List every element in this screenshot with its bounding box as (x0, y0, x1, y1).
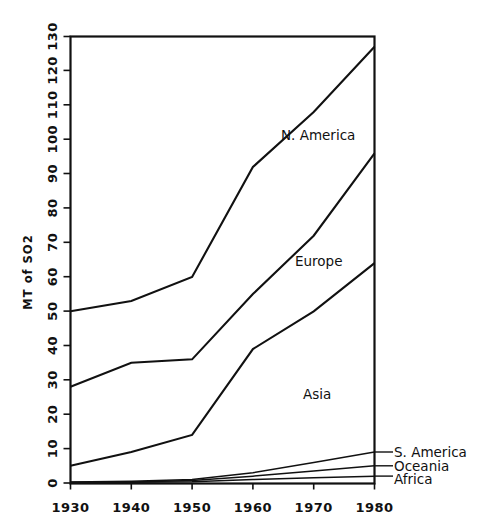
series-label-africa: Africa (394, 471, 433, 487)
x-tick-label: 1970 (295, 500, 333, 515)
sulfur-emissions-line-chart: 0 10 20 30 40 50 60 70 80 90 100 110 120… (0, 0, 485, 531)
series-label-n-america: N. America (281, 127, 355, 143)
y-tick-label: 100 (45, 125, 60, 154)
y-tick-label: 110 (45, 90, 60, 119)
x-tick-label: 1930 (51, 500, 89, 515)
y-axis-title: MT of SO2 (21, 234, 35, 309)
y-tick-label: 90 (45, 164, 60, 183)
y-tick-label: 70 (45, 233, 60, 252)
y-tick-label: 30 (45, 370, 60, 389)
y-tick-label: 40 (45, 336, 60, 355)
x-tick-label: 1940 (112, 500, 150, 515)
y-tick-label: 50 (45, 302, 60, 321)
y-tick-label: 20 (45, 405, 60, 424)
y-tick-label: 60 (45, 267, 60, 286)
y-tick-label: 10 (45, 439, 60, 458)
y-tick-label: 130 (45, 22, 60, 51)
chart-svg: 0 10 20 30 40 50 60 70 80 90 100 110 120… (0, 0, 485, 531)
series-label-asia: Asia (303, 386, 331, 402)
series-label-europe: Europe (295, 253, 342, 269)
x-tick-label: 1960 (234, 500, 272, 515)
y-tick-label: 0 (45, 478, 60, 488)
y-tick-label: 120 (45, 56, 60, 85)
x-tick-label: 1980 (355, 500, 393, 515)
x-tick-label: 1950 (173, 500, 211, 515)
y-tick-label: 80 (45, 198, 60, 217)
